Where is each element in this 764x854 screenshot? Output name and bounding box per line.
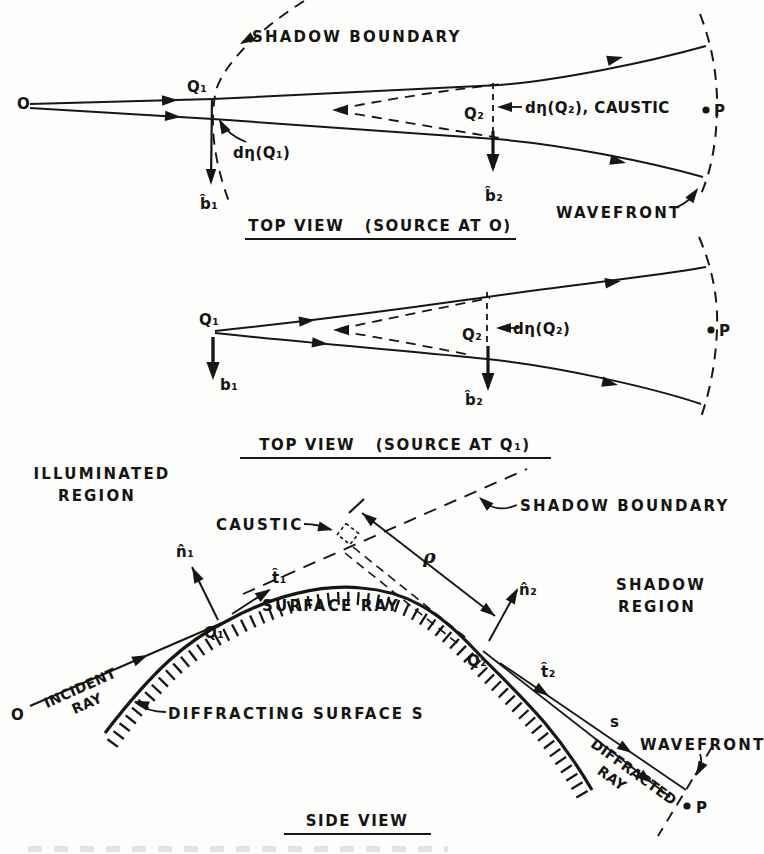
caustic-strip-upper xyxy=(353,547,470,641)
shadow-region-label-line2: REGION xyxy=(618,598,696,616)
field-point-P-dot xyxy=(707,326,714,333)
b2-label: b̂₂ xyxy=(484,186,503,205)
diagram1-arrowheads xyxy=(162,32,702,203)
q2-label: Q₂ xyxy=(462,326,482,344)
cut-off-page-caption xyxy=(28,846,448,852)
source-O-label: O xyxy=(17,95,30,113)
n2-label: n̂₂ xyxy=(519,581,537,599)
q1-label: Q₁ xyxy=(204,624,224,642)
q2-label: Q₂ xyxy=(467,652,487,670)
ray-top xyxy=(215,267,706,331)
figure-surface-diffraction: SHADOW BOUNDARY O Q₁ dη(Q₁) b̂₁ Q₂ dη(Q₂… xyxy=(0,0,764,854)
ray-bottom xyxy=(30,108,703,177)
illuminated-region-label-line1: ILLUMINATED xyxy=(34,465,171,483)
q1-label: Q₁ xyxy=(187,78,207,96)
b2-label: b̂₂ xyxy=(464,390,483,409)
q1-label: Q₁ xyxy=(199,311,219,329)
p-label: P xyxy=(714,102,726,120)
p-label: P xyxy=(719,322,731,340)
shadow-boundary-label: SHADOW BOUNDARY xyxy=(252,28,462,46)
dn-q2-caustic-label: dη(Q₂), CAUSTIC xyxy=(525,99,670,117)
p-label: P xyxy=(696,799,708,817)
source-O-label: O xyxy=(11,706,24,724)
illuminated-region-label-line2: REGION xyxy=(58,487,136,505)
ray-top xyxy=(30,46,706,104)
surface-hatching xyxy=(112,598,583,796)
diagram1-top-view-source-O: SHADOW BOUNDARY O Q₁ dη(Q₁) b̂₁ Q₂ dη(Q₂… xyxy=(17,1,726,239)
caustic-box xyxy=(337,524,358,545)
field-point-P-dot xyxy=(683,802,690,809)
shadow-region-label-line1: SHADOW xyxy=(616,576,706,594)
figure-line-art: SHADOW BOUNDARY O Q₁ dη(Q₁) b̂₁ Q₂ dη(Q₂… xyxy=(0,0,764,854)
caustic-label: CAUSTIC xyxy=(216,516,303,534)
b1-label: b₁ xyxy=(220,376,238,394)
t1-label: t̂₁ xyxy=(272,568,287,587)
dn-q1-label: dη(Q₁) xyxy=(233,144,290,162)
q2-label: Q₂ xyxy=(464,105,484,123)
n1-label: n̂₁ xyxy=(176,543,194,561)
diagram1-caption: TOP VIEW (SOURCE AT O) xyxy=(248,217,511,235)
b1-label: b̂₁ xyxy=(199,194,218,213)
rho-end-tick xyxy=(349,499,364,513)
shadow-boundary-label: SHADOW BOUNDARY xyxy=(520,497,730,515)
s-label: s xyxy=(610,713,619,731)
wavefront-label: WAVEFRONT xyxy=(640,736,764,754)
diffracting-surface-label: DIFFRACTING SURFACE S xyxy=(168,705,425,723)
diagram2-top-view-source-Q1: Q₁ b₁ Q₂ dη(Q₂) b̂₂ P TOP VIEW (SOURCE A… xyxy=(199,237,731,458)
diagram3-side-view: ILLUMINATED REGION CAUSTIC SHADOW BOUNDA… xyxy=(11,465,764,836)
wavefront-label: WAVEFRONT xyxy=(556,204,681,222)
surface-ray-label: SURFACE RAY xyxy=(262,597,400,615)
rho-label: ρ xyxy=(422,545,436,567)
ray-bottom xyxy=(215,333,701,404)
diagram2-caption: TOP VIEW (SOURCE AT Q₁) xyxy=(259,436,531,454)
dn-q2-label: dη(Q₂) xyxy=(513,320,570,338)
t2-label: t̂₂ xyxy=(541,662,556,681)
field-point-P-dot xyxy=(702,106,709,113)
diagram3-caption: SIDE VIEW xyxy=(306,812,409,830)
